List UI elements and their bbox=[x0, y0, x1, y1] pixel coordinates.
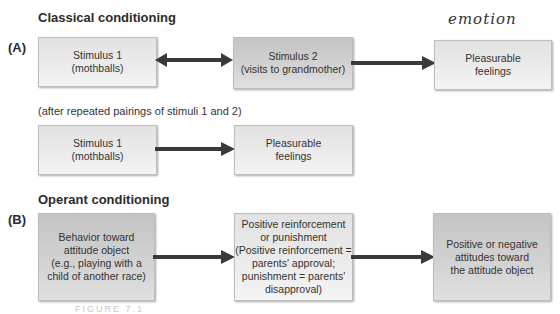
bidirectional-arrow bbox=[155, 52, 233, 68]
behavior-box: Behavior toward attitude object (e.g., p… bbox=[38, 213, 155, 301]
classical-conditioning-heading: Classical conditioning bbox=[38, 10, 176, 25]
handwritten-annotation: emotion bbox=[448, 10, 517, 28]
pleasurable-feelings-box: Pleasurable feelings bbox=[434, 40, 552, 90]
repeated-pairings-note: (after repeated pairings of stimuli 1 an… bbox=[38, 105, 242, 117]
operant-conditioning-heading: Operant conditioning bbox=[38, 192, 169, 207]
arrow-right-icon bbox=[351, 55, 436, 71]
arrow-right-icon bbox=[155, 141, 235, 157]
arrow-right-icon bbox=[351, 249, 435, 265]
section-b-label: (B) bbox=[8, 212, 26, 227]
section-a-label: (A) bbox=[8, 40, 26, 55]
arrow-right-icon bbox=[153, 249, 235, 265]
attitudes-box: Positive or negative attitudes toward th… bbox=[433, 213, 551, 301]
figure-caption: FIGURE 7.1 bbox=[75, 304, 144, 314]
stimulus-1-box-after: Stimulus 1 (mothballs) bbox=[38, 125, 157, 175]
reinforcement-box: Positive reinforcement or punishment (Po… bbox=[234, 213, 353, 301]
pleasurable-feelings-box-after: Pleasurable feelings bbox=[234, 125, 353, 175]
stimulus-2-box: Stimulus 2 (visits to grandmother) bbox=[233, 37, 353, 89]
stimulus-1-box: Stimulus 1 (mothballs) bbox=[38, 37, 157, 87]
